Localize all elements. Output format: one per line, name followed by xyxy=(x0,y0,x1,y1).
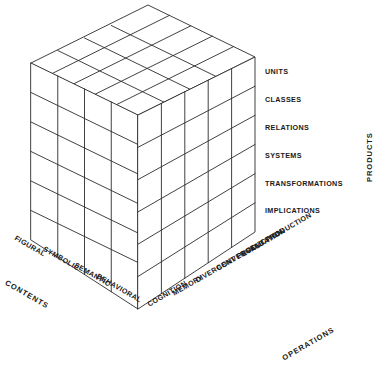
cube-drawing xyxy=(0,0,378,384)
product-label-transformations: TRANSFORMATIONS xyxy=(265,180,343,187)
product-label-implications: IMPLICATIONS xyxy=(265,207,320,214)
axis-title-products: PRODUCTS xyxy=(366,132,374,182)
product-label-classes: CLASSES xyxy=(265,96,301,103)
product-label-systems: SYSTEMS xyxy=(265,152,302,159)
product-label-units: UNITS xyxy=(265,68,288,75)
soi-cube-figure: UNITS CLASSES RELATIONS SYSTEMS TRANSFOR… xyxy=(0,0,378,384)
product-label-relations: RELATIONS xyxy=(265,124,309,131)
